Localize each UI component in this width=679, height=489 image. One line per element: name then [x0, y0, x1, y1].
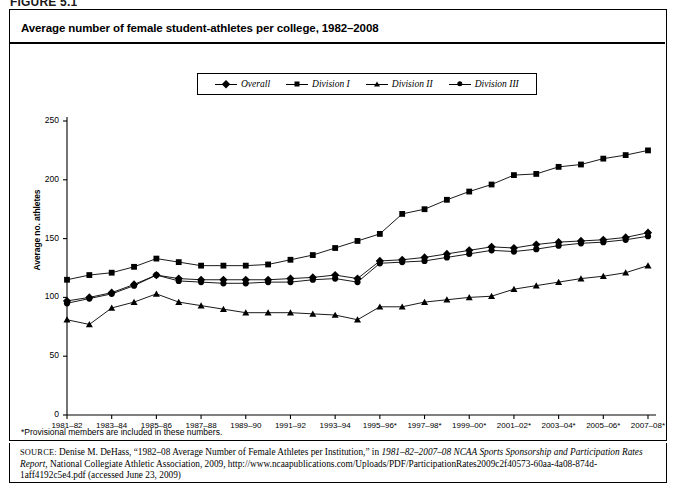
source-part2: , National Collegiate Athletic Associati… [20, 459, 597, 481]
legend-label: Overall [241, 79, 270, 89]
triangle-data-point [645, 262, 652, 268]
square-marker [295, 82, 300, 87]
circle-data-point [265, 279, 271, 285]
circle-data-point [556, 243, 562, 249]
circle-data-point [198, 279, 204, 285]
circle-data-point [377, 260, 383, 266]
square-data-point [623, 152, 629, 158]
triangle-data-point [64, 316, 71, 322]
series-division-ii [64, 262, 652, 327]
circle-data-point [623, 237, 629, 243]
square-data-point [600, 156, 606, 162]
source-part1: Denise M. DeHass, “1982–08 Average Numbe… [57, 447, 382, 457]
square-data-point [221, 263, 227, 269]
circle-data-point [176, 278, 182, 284]
circle-data-point [399, 259, 405, 265]
circle-marker [457, 81, 462, 86]
circle-data-point [354, 279, 360, 285]
legend-label: Division I [312, 79, 350, 89]
diamond-marker-icon [215, 84, 237, 85]
square-data-point [578, 162, 584, 168]
circle-data-point [86, 295, 92, 301]
square-data-point [131, 264, 137, 270]
circle-data-point [466, 251, 472, 257]
square-data-point [422, 206, 428, 212]
square-data-point [645, 148, 651, 154]
square-data-point [243, 263, 249, 269]
square-data-point [310, 252, 316, 258]
square-data-point [153, 256, 159, 262]
square-data-point [444, 197, 450, 203]
legend-item-division-i: Division I [286, 79, 350, 89]
y-tick-label: 100 [25, 291, 59, 301]
series-division-i [64, 148, 651, 283]
y-axis-label: Average no. athletes [32, 170, 42, 290]
square-data-point [176, 259, 182, 265]
circle-data-point [243, 280, 249, 286]
circle-data-point [645, 233, 651, 239]
y-tick-label: 250 [25, 115, 59, 125]
chart-panel: Average number of female student-athlete… [9, 9, 667, 441]
square-data-point [399, 211, 405, 217]
square-data-point [511, 172, 517, 178]
legend-label: Division III [475, 79, 519, 89]
circle-data-point [578, 240, 584, 246]
circle-data-point [220, 280, 226, 286]
figure-number: FIGURE 5.1 [10, 0, 77, 7]
square-data-point [86, 272, 92, 278]
square-marker-icon [286, 84, 308, 85]
circle-data-point [444, 254, 450, 260]
triangle-data-point [175, 299, 182, 305]
square-data-point [198, 263, 204, 269]
legend-item-overall: Overall [215, 79, 270, 89]
y-tick-label: 200 [25, 174, 59, 184]
square-data-point [533, 171, 539, 177]
legend-item-division-iii: Division III [449, 79, 519, 89]
circle-data-point [287, 279, 293, 285]
circle-data-point [109, 291, 115, 297]
source-panel: SOURCE: Denise M. DeHass, “1982–08 Avera… [9, 443, 667, 483]
source-prefix: SOURCE: [20, 448, 57, 457]
square-data-point [355, 238, 361, 244]
circle-data-point [511, 248, 517, 254]
circle-data-point [131, 283, 137, 289]
x-tick-label: 2007–08* [618, 421, 678, 430]
triangle-marker-icon [366, 84, 388, 85]
square-data-point [489, 182, 495, 188]
chart-legend: OverallDivision IDivision IIDivision III [197, 73, 537, 95]
circle-data-point [533, 246, 539, 252]
circle-data-point [332, 275, 338, 281]
legend-label: Division II [392, 79, 433, 89]
triangle-data-point [153, 290, 160, 296]
circle-data-point [488, 247, 494, 253]
square-data-point [64, 277, 70, 283]
square-data-point [265, 262, 271, 268]
square-data-point [288, 257, 294, 263]
y-tick-label: 0 [25, 409, 59, 419]
square-data-point [466, 189, 472, 195]
y-tick-label: 50 [25, 350, 59, 360]
triangle-marker [374, 82, 380, 87]
circle-data-point [600, 239, 606, 245]
circle-marker-icon [449, 84, 471, 85]
figure-root: FIGURE 5.1 Average number of female stud… [0, 0, 679, 489]
circle-data-point [310, 277, 316, 283]
square-data-point [556, 164, 562, 170]
square-data-point [377, 231, 383, 237]
circle-data-point [421, 258, 427, 264]
square-data-point [109, 270, 115, 276]
triangle-data-point [131, 299, 138, 305]
circle-data-point [153, 272, 159, 278]
legend-item-division-ii: Division II [366, 79, 433, 89]
triangle-data-point [622, 269, 629, 275]
chart-footnote: *Provisional members are included in the… [21, 427, 222, 437]
source-note: SOURCE: Denise M. DeHass, “1982–08 Avera… [20, 447, 660, 482]
y-tick-label: 150 [25, 233, 59, 243]
square-data-point [332, 245, 338, 251]
diamond-marker [222, 80, 230, 88]
circle-data-point [64, 300, 70, 306]
